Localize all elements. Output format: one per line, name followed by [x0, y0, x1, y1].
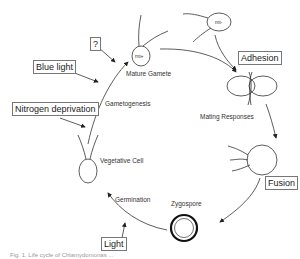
nitrogen-deprivation-box: Nitrogen deprivation — [12, 102, 99, 116]
mt-plus-label: mt+ — [135, 53, 143, 59]
figure-caption: Fig. 1. Life cycle of Chlamydomonas ... — [10, 252, 113, 258]
mt-minus-label: mt- — [215, 19, 222, 25]
adhesion-box: Adhesion — [238, 51, 282, 65]
gametogenesis-label: Gametogenesis — [105, 100, 151, 107]
zygospore-cell — [171, 215, 197, 241]
light-box: Light — [101, 237, 127, 251]
question-trigger-box: ? — [90, 37, 101, 51]
fusion-cell — [247, 145, 277, 175]
zygospore-label: Zygospore — [171, 200, 202, 207]
mating-cell-right — [249, 76, 277, 96]
mature-gamete-label: Mature Gamete — [126, 70, 171, 77]
fusion-box: Fusion — [265, 176, 298, 190]
germination-label: Germination — [115, 196, 150, 203]
life-cycle-diagram — [0, 0, 300, 259]
vegetative-cell — [79, 159, 97, 183]
mating-responses-label: Mating Responses — [200, 113, 254, 120]
blue-light-box: Blue light — [33, 60, 76, 74]
vegetative-cell-label: Vegetative Cell — [100, 157, 143, 164]
